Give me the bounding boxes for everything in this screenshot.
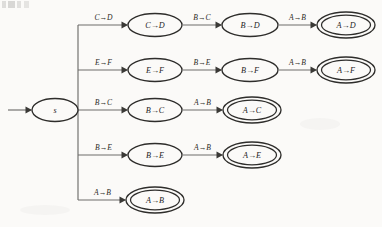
branch-arrow-head-row-3: [122, 151, 129, 158]
branch-label-row-1: E→F: [94, 58, 112, 67]
edge-label-row-1-0: B→E: [194, 58, 211, 67]
branch-label-row-4: A→B: [93, 188, 111, 197]
state-node-A-to-B-label: A→B: [145, 196, 164, 205]
edge-label-row-0-1: A→B: [288, 13, 306, 22]
edge-label-row-3-0: A→B: [193, 143, 211, 152]
state-node-B-to-C-label: B→C: [146, 106, 165, 115]
state-node-E-to-F-label: E→F: [145, 66, 165, 75]
state-node-B-to-F-label: B→F: [241, 66, 260, 75]
edge-arrow-head-row-0-1: [311, 21, 318, 28]
state-node-start-label: s: [53, 106, 56, 115]
start-arrow-head: [26, 106, 33, 113]
nodes-layer: [32, 12, 375, 213]
state-node-A-to-D-label: A→D: [335, 21, 355, 30]
labels-layer: C→DB→CA→BC→DB→DA→DE→FB→EA→BE→FB→FA→FB→CA…: [53, 13, 356, 206]
edge-arrow-head-row-1-1: [311, 66, 318, 73]
state-node-A-to-E-label: A→E: [242, 151, 261, 160]
state-node-C-to-D-label: C→D: [145, 21, 165, 30]
branch-label-row-0: C→D: [94, 13, 113, 22]
branch-label-row-3: B→E: [95, 143, 112, 152]
diagram-canvas: C→DB→CA→BC→DB→DA→DE→FB→EA→BE→FB→FA→FB→CA…: [0, 0, 382, 227]
branch-label-row-2: B→C: [95, 98, 113, 107]
state-node-A-to-C-label: A→C: [242, 106, 262, 115]
edge-arrow-head-row-0-0: [216, 21, 223, 28]
branch-arrow-head-row-4: [120, 196, 127, 203]
automaton-diagram: C→DB→CA→BC→DB→DA→DE→FB→EA→BE→FB→FA→FB→CA…: [0, 0, 382, 227]
state-node-A-to-F-label: A→F: [336, 66, 356, 75]
state-node-B-to-E-label: B→E: [146, 151, 164, 160]
state-node-B-to-D-label: B→D: [240, 21, 259, 30]
branch-arrow-head-row-2: [122, 106, 129, 113]
edge-arrow-head-row-2-0: [217, 106, 224, 113]
edge-arrow-head-row-1-0: [216, 66, 223, 73]
edge-label-row-2-0: A→B: [193, 98, 211, 107]
edge-label-row-0-0: B→C: [193, 13, 211, 22]
branch-arrow-head-row-1: [122, 66, 129, 73]
edge-arrow-head-row-3-0: [217, 151, 224, 158]
branch-arrow-head-row-0: [122, 21, 129, 28]
edge-label-row-1-1: A→B: [288, 58, 306, 67]
